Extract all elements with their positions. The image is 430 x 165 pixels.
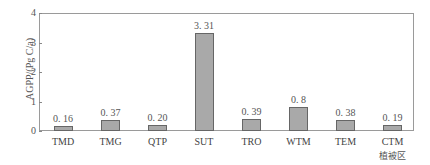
bar-value-label: 0. 19 xyxy=(368,112,418,123)
bar-tmg xyxy=(101,120,120,131)
x-tick-label: TRO xyxy=(227,136,277,147)
y-tick-mark xyxy=(39,72,42,73)
bar-chart: AGPP/(Pg C/a) 01234 0. 16TMD0. 37TMG0. 2… xyxy=(0,0,430,165)
y-tick-mark xyxy=(39,131,42,132)
y-tick-mark xyxy=(39,43,42,44)
x-tick-label: TMG xyxy=(86,136,136,147)
y-tick-label: 0 xyxy=(27,125,36,136)
bar-ctm xyxy=(383,125,402,131)
bar-tro xyxy=(242,119,261,131)
bar-value-label: 0. 16 xyxy=(38,113,88,124)
x-tick-sublabel: 植被区 xyxy=(368,149,418,162)
bar-tem xyxy=(336,120,355,131)
x-tick-label: CTM xyxy=(368,136,418,147)
bar-qtp xyxy=(148,125,167,131)
bar-wtm xyxy=(289,107,308,131)
y-tick-label: 4 xyxy=(27,7,36,18)
bar-value-label: 0. 38 xyxy=(321,107,371,118)
y-tick-mark xyxy=(39,102,42,103)
bar-value-label: 3. 31 xyxy=(179,20,229,31)
y-tick-label: 1 xyxy=(27,96,36,107)
bar-value-label: 0. 20 xyxy=(133,112,183,123)
x-tick-label: TEM xyxy=(321,136,371,147)
x-tick-label: WTM xyxy=(274,136,324,147)
y-tick-label: 2 xyxy=(27,66,36,77)
bar-value-label: 0. 37 xyxy=(86,107,136,118)
x-tick-label: TMD xyxy=(38,136,88,147)
y-tick-mark xyxy=(39,13,42,14)
bar-sut xyxy=(195,33,214,131)
x-tick-label: SUT xyxy=(179,136,229,147)
bar-value-label: 0. 8 xyxy=(274,94,324,105)
x-tick-label: QTP xyxy=(133,136,183,147)
bar-value-label: 0. 39 xyxy=(227,106,277,117)
y-tick-label: 3 xyxy=(27,37,36,48)
bar-tmd xyxy=(54,126,73,131)
